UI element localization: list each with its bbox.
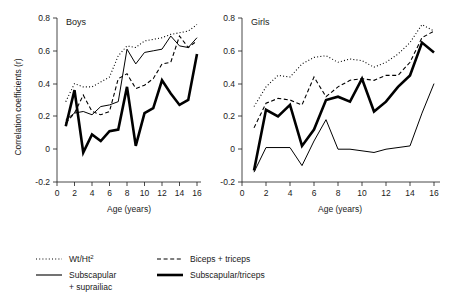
girls-x-tick-label-12: 12 xyxy=(381,188,391,198)
girls-y-tick-label-0.2: 0.2 xyxy=(223,111,235,121)
girls-x-tick-label-6: 6 xyxy=(312,188,317,198)
x-tick-label-6: 6 xyxy=(107,188,112,198)
y-tick-label-0.6: 0.6 xyxy=(38,46,50,56)
x-tick-label-12: 12 xyxy=(157,188,167,198)
y-tick-label-0.2: 0.2 xyxy=(38,111,50,121)
x-tick-label-10: 10 xyxy=(140,188,150,198)
girls-x-tick-label-10: 10 xyxy=(357,188,367,198)
girls-x-tick-label-16: 16 xyxy=(429,188,439,198)
x-tick-label-14: 14 xyxy=(175,188,185,198)
panel-title-boys: Boys xyxy=(66,17,87,27)
x-tick-label-16: 16 xyxy=(192,188,202,198)
panel-title-girls: Girls xyxy=(251,17,270,27)
girls-y-tick-label-neg0.2: -0.2 xyxy=(220,177,235,187)
girls-y-tick-label-0.6: 0.6 xyxy=(223,46,235,56)
boys-x-axis-title: Age (years) xyxy=(107,204,151,214)
x-tick-label-4: 4 xyxy=(90,188,95,198)
legend-label-biceps-triceps: Biceps + triceps xyxy=(190,254,250,264)
girls-x-tick-label-14: 14 xyxy=(405,188,415,198)
girls-y-tick-label-0: 0 xyxy=(230,144,235,154)
y-tick-label-0.8: 0.8 xyxy=(38,13,50,23)
y-tick-label-0.4: 0.4 xyxy=(38,79,50,89)
girls-x-tick-label-4: 4 xyxy=(288,188,293,198)
y-tick-label-neg0.2: -0.2 xyxy=(35,177,50,187)
x-tick-label-8: 8 xyxy=(125,188,130,198)
figure-correlation-coefficients-by-age: Correlation coefficients (r) Boys 0.8 0.… xyxy=(0,0,455,301)
girls-x-tick-label-8: 8 xyxy=(336,188,341,198)
y-axis-title: Correlation coefficients (r) xyxy=(13,58,23,155)
legend-label-subscapular-triceps: Subscapular/triceps xyxy=(190,270,265,280)
legend-label-subscapular-suprailiac-line2: + suprailiac xyxy=(69,282,113,292)
girls-x-axis-title: Age (years) xyxy=(318,204,362,214)
girls-x-tick-label-2: 2 xyxy=(264,188,269,198)
legend-label-subscapular-suprailiac: Subscapular xyxy=(69,270,116,280)
x-tick-label-2: 2 xyxy=(72,188,77,198)
boys-x-tick-labels: 0 2 4 6 8 10 12 14 16 xyxy=(55,188,202,198)
x-tick-label-0: 0 xyxy=(55,188,60,198)
girls-x-tick-label-0: 0 xyxy=(240,188,245,198)
y-tick-label-0: 0 xyxy=(45,144,50,154)
girls-y-tick-label-0.4: 0.4 xyxy=(223,79,235,89)
girls-y-tick-label-0.8: 0.8 xyxy=(223,13,235,23)
